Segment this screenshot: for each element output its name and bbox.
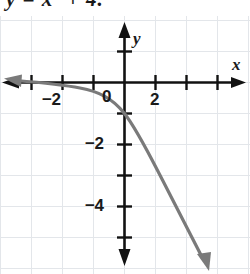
y-tick-label-neg2: −2 [85, 134, 103, 154]
x-axis-label: x [232, 55, 241, 75]
y-axis-arrow-up [119, 22, 131, 38]
y-tick-label-neg4: −4 [85, 196, 103, 216]
y-axis [117, 22, 132, 266]
x-tick-label-2: 2 [150, 90, 159, 110]
equation-clip-strip: y = x² + 4. [0, 0, 250, 16]
graph-plate: y x 0 −2 2 −2 −4 [0, 16, 250, 274]
origin-label: 0 [102, 87, 111, 107]
y-axis-arrow-down [119, 249, 131, 266]
x-tick-label-neg2: −2 [42, 90, 60, 110]
y-axis-label: y [133, 29, 141, 49]
figure-root: y = x² + 4. [0, 0, 250, 274]
coordinate-graph [0, 16, 250, 274]
equation-text: y = x² + 4. [6, 0, 104, 12]
x-axis-arrow-right [231, 77, 246, 88]
